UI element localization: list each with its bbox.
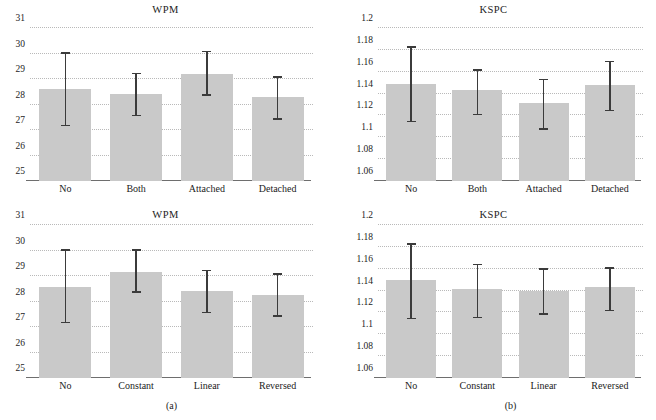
error-bar [410, 48, 412, 122]
x-tick-label: Constant [101, 380, 172, 391]
error-cap-top [273, 76, 282, 77]
x-tick-label: Constant [444, 380, 510, 391]
y-tick-label: 1.12 [356, 100, 373, 110]
error-cap-bottom [273, 118, 282, 119]
x-tick-labels: NoConstantLinearReversed [378, 380, 643, 391]
error-cap-top [132, 249, 141, 250]
bar-series [378, 225, 643, 378]
y-tick-label: 27 [16, 115, 26, 125]
error-bar [135, 251, 137, 293]
error-bar [609, 269, 611, 312]
error-cap-top [605, 267, 614, 268]
error-cap-top [407, 243, 416, 244]
error-bar [477, 265, 479, 317]
error-cap-bottom [473, 317, 482, 318]
error-bar [277, 78, 279, 120]
y-tick-label: 30 [16, 235, 26, 245]
bar-slot [511, 28, 577, 181]
error-bar [477, 71, 479, 116]
subcaption-a: (a) [30, 400, 313, 411]
x-tick-label: No [378, 380, 444, 391]
plot-area: 1.061.081.11.121.141.161.181.2 [378, 225, 643, 378]
error-cap-top [407, 46, 416, 47]
y-tick-label: 29 [16, 64, 26, 74]
x-tick-label: Reversed [242, 380, 313, 391]
y-tick-label: 1.2 [361, 210, 373, 220]
error-cap-bottom [132, 115, 141, 116]
error-cap-top [605, 61, 614, 62]
subcaption-b: (b) [378, 400, 643, 411]
y-tick-label: 1.12 [356, 297, 373, 307]
y-tick-label: 1.18 [356, 35, 373, 45]
bar-slot [101, 225, 172, 378]
panel-wpm-bottom: WPM 25262728293031 NoConstantLinearRever… [0, 205, 331, 420]
error-cap-bottom [273, 315, 282, 316]
y-tick-label: 25 [16, 363, 26, 373]
y-tick-label: 1.06 [356, 363, 373, 373]
y-tick-label: 31 [16, 210, 26, 220]
y-tick-label: 1.18 [356, 232, 373, 242]
y-tick-label: 1.14 [356, 78, 373, 88]
panel-kspc-bottom: KSPC 1.061.081.11.121.141.161.181.2 NoCo… [331, 205, 656, 420]
y-tick-label: 29 [16, 261, 26, 271]
error-bar [135, 74, 137, 116]
plot-area: 25262728293031 [30, 225, 313, 378]
error-cap-bottom [61, 322, 70, 323]
error-cap-bottom [539, 313, 548, 314]
bar-slot [444, 225, 510, 378]
error-cap-top [202, 270, 211, 271]
error-cap-top [61, 52, 70, 53]
chart-title: KSPC [331, 209, 656, 220]
error-cap-top [132, 73, 141, 74]
error-bar [206, 52, 208, 95]
bar-slot [30, 28, 101, 181]
bar-series [30, 225, 313, 378]
y-tick-label: 1.08 [356, 341, 373, 351]
error-bar [277, 275, 279, 317]
bar-slot [378, 28, 444, 181]
y-tick-label: 28 [16, 286, 26, 296]
error-cap-bottom [473, 114, 482, 115]
x-tick-label: Detached [242, 183, 313, 194]
error-cap-bottom [605, 110, 614, 111]
y-tick-label: 1.16 [356, 57, 373, 67]
error-cap-top [539, 79, 548, 80]
bar-slot [172, 225, 243, 378]
error-cap-bottom [605, 310, 614, 311]
y-tick-label: 26 [16, 140, 26, 150]
x-tick-label: Reversed [577, 380, 643, 391]
chart-title: WPM [0, 4, 331, 15]
x-tick-label: No [30, 183, 101, 194]
error-cap-bottom [202, 94, 211, 95]
error-cap-top [273, 273, 282, 274]
bar-slot [577, 28, 643, 181]
y-tick-label: 1.1 [361, 122, 373, 132]
error-bar [543, 270, 545, 315]
plot-area: 25262728293031 [30, 28, 313, 181]
error-bar [65, 251, 67, 324]
figure-grid: WPM 25262728293031 NoBothAttachedDetache… [0, 0, 656, 420]
bar-slot [378, 225, 444, 378]
error-bar [410, 245, 412, 319]
x-tick-label: No [378, 183, 444, 194]
y-tick-label: 1.2 [361, 13, 373, 23]
x-tick-label: No [30, 380, 101, 391]
bar-series [378, 28, 643, 181]
x-tick-labels: NoConstantLinearReversed [30, 380, 313, 391]
error-bar [206, 271, 208, 313]
y-tick-label: 1.16 [356, 254, 373, 264]
chart-title: KSPC [331, 4, 656, 15]
plot-area: 1.061.081.11.121.141.161.181.2 [378, 28, 643, 181]
y-tick-label: 31 [16, 13, 26, 23]
x-tick-label: Detached [577, 183, 643, 194]
y-tick-label: 30 [16, 38, 26, 48]
x-tick-labels: NoBothAttachedDetached [30, 183, 313, 194]
y-tick-label: 25 [16, 166, 26, 176]
bar-slot [30, 225, 101, 378]
error-cap-top [473, 69, 482, 70]
bar-slot [444, 28, 510, 181]
error-cap-top [61, 249, 70, 250]
y-tick-label: 1.14 [356, 275, 373, 285]
error-bar [65, 54, 67, 127]
x-tick-label: Both [101, 183, 172, 194]
